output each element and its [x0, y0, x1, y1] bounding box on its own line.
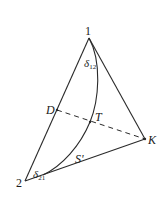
point-T-label: T	[95, 110, 103, 124]
point-T-marker	[89, 121, 91, 123]
point-K-marker	[144, 138, 146, 140]
vertex-2-label: 2	[16, 176, 22, 190]
curve-s-prime-label: S'	[75, 152, 84, 166]
delta-12-label: δ12	[84, 57, 97, 71]
point-D-marker	[56, 109, 58, 111]
vertex-1-label: 1	[85, 24, 91, 38]
vertex-K-label: K	[147, 133, 157, 147]
delta-12-subscript: 12	[89, 63, 97, 71]
ternary-diagram: 1 2 K D T S' δ12 δ21	[0, 0, 168, 199]
delta-21-subscript: 21	[38, 174, 46, 182]
delta-21-label: δ21	[33, 168, 46, 182]
point-D-label: D	[45, 103, 55, 117]
